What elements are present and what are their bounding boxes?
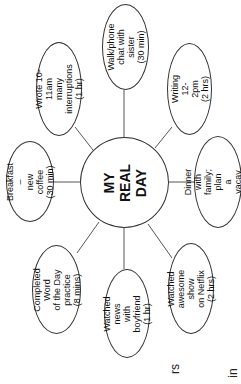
node-breakfast-label: Breakfast – new coffee (30 min) <box>5 162 55 200</box>
connector-wrote <box>75 127 93 150</box>
node-walk: Walk/phone chat with sister (30 min) <box>102 4 149 90</box>
node-word-label: Completed Word of the Day practice (8 mi… <box>32 268 82 312</box>
node-news: Watched news with boyfriend (1 hr) <box>104 269 150 358</box>
node-news-label: Watched news with boyfriend (1 hr) <box>102 295 152 332</box>
node-word: Completed Word of the Day practice (8 mi… <box>32 245 81 334</box>
node-writing: Writing 12-2pm (2 hrs) <box>167 43 212 135</box>
node-walk-label: Walk/phone chat with sister (30 min) <box>106 23 146 70</box>
node-netflix: Watched awesome show on Netflix (2 hrs) <box>168 243 214 334</box>
node-writing-label: Writing 12-2pm (2 hrs) <box>170 75 210 103</box>
node-dinner: Dinner with family; plan a vacay (2 hrs) <box>194 136 241 228</box>
connector-netflix <box>148 224 172 258</box>
node-dinner-label: Dinner with family; plan a vacay (2 hrs) <box>183 169 241 196</box>
node-breakfast: Breakfast – new coffee (30 min) <box>6 141 54 222</box>
connector-word <box>77 222 99 253</box>
text-fragment-rs: rs <box>168 364 182 374</box>
node-netflix-label: Watched awesome show on Netflix (2 hrs) <box>166 269 216 308</box>
node-wrote: Wrote 10-11am many interruptions (1 hr) <box>36 42 82 136</box>
mind-map-diagram: MY REAL DAY Walk/phone chat with sister … <box>0 0 241 384</box>
text-fragment-in: in <box>226 368 240 377</box>
node-wrote-label: Wrote 10-11am many interruptions (1 hr) <box>34 64 84 114</box>
center-node-label: MY REAL DAY <box>101 161 149 205</box>
center-node: MY REAL DAY <box>80 137 169 228</box>
connector-writing <box>155 127 172 148</box>
